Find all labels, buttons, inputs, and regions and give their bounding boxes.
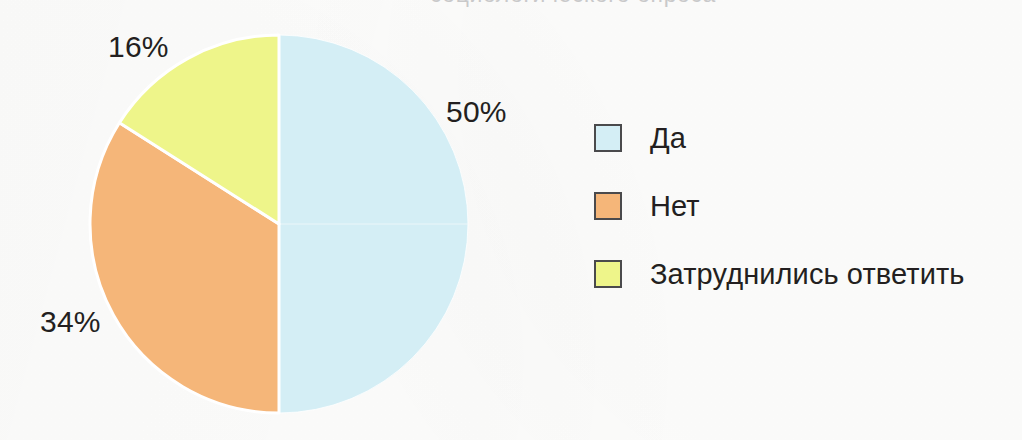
legend-swatch-zatrudnilis [594,260,622,288]
legend-label-net: Нет [650,192,700,221]
legend-label-da: Да [650,124,686,153]
pie-chart: 50% 34% 16% Да Нет Затруднились ответить [0,0,1022,440]
slice-label-net: 34% [40,305,101,339]
legend-item-da[interactable]: Да [594,104,1014,172]
legend-label-zatrudnilis: Затруднились ответить [650,260,965,289]
slice-label-da: 50% [446,95,507,129]
slice-label-zatrudnilis: 16% [108,30,169,64]
pie-slice-group [90,35,468,413]
legend-swatch-da [594,124,622,152]
legend-item-zatrudnilis[interactable]: Затруднились ответить [594,240,1014,308]
legend-swatch-net [594,192,622,220]
legend-item-net[interactable]: Нет [594,172,1014,240]
chart-legend: Да Нет Затруднились ответить [594,104,1014,308]
scanned-page: социологического опроса 50% 34% 16% Да Н… [0,0,1022,440]
